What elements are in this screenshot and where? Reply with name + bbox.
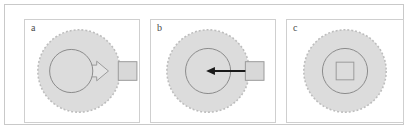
panel-c: c (286, 19, 404, 123)
particle-b (245, 62, 264, 81)
panel-a-svg (25, 20, 139, 122)
panel-b: b (150, 19, 276, 123)
figure-outer-frame: a b (4, 4, 404, 125)
nucleus-a (50, 49, 93, 92)
panel-b-svg (151, 20, 275, 122)
figure-root: a b (0, 0, 413, 133)
panel-b-diagram (151, 20, 275, 122)
panel-c-svg (287, 20, 403, 122)
particle-a (118, 62, 137, 81)
panel-a-diagram (25, 20, 139, 122)
panel-a: a (24, 19, 140, 123)
panel-c-diagram (287, 20, 403, 122)
particle-c (336, 62, 354, 80)
